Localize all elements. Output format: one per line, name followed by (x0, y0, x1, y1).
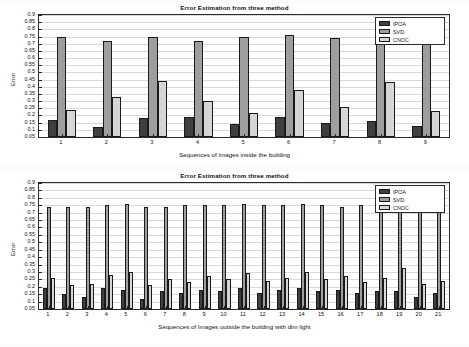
y-axis-label: 0.05 (16, 133, 35, 139)
y-axis-label: 0.2 (16, 111, 35, 117)
legend-item-ipoa: IPOA (379, 188, 441, 195)
x-axis-label: 4 (196, 139, 199, 145)
legend-item-svd: SVD (379, 28, 441, 35)
x-axis-tick (322, 306, 323, 309)
x-axis-tick (283, 306, 284, 309)
x-axis-label: 11 (240, 311, 246, 317)
x-axis-tick (107, 134, 108, 137)
bar-ipoa-1 (48, 120, 57, 137)
y-axis-tick (39, 15, 42, 16)
y-axis-tick (39, 37, 42, 38)
y-axis-label: 0.3 (16, 97, 35, 103)
y-axis-label: 0.65 (16, 47, 35, 53)
x-axis-label: 3 (85, 311, 88, 317)
bar-svd-9 (422, 37, 431, 137)
x-axis-label: 6 (287, 139, 290, 145)
x-axis-tick (303, 306, 304, 309)
bar-ipoa-4 (184, 117, 193, 137)
bar-svd-4 (194, 41, 203, 137)
chart-top-title: Error Estimation from three method (0, 4, 469, 11)
y-axis-label: 0.75 (16, 33, 35, 39)
y-axis-label: 0.35 (16, 90, 35, 96)
bar-cnoc-11 (246, 273, 250, 309)
bar-cnoc-5 (129, 272, 133, 309)
bar-svd-5 (239, 37, 248, 137)
y-axis-label: 0.85 (16, 18, 35, 24)
y-axis-tick (39, 265, 42, 266)
gridline (39, 183, 449, 184)
y-axis-label: 0.5 (16, 238, 35, 244)
y-axis-tick (39, 287, 42, 288)
x-axis-tick (107, 306, 108, 309)
y-axis-label: 0.4 (16, 253, 35, 259)
y-axis-label: 0.1 (16, 126, 35, 132)
bar-cnoc-10 (226, 279, 230, 309)
bar-cnoc-8 (187, 282, 191, 309)
y-axis-tick (39, 58, 42, 59)
bar-cnoc-6 (148, 285, 152, 309)
y-axis-tick (39, 51, 42, 52)
legend-swatch-ipoa (379, 21, 390, 26)
bar-cnoc-7 (168, 279, 172, 309)
x-axis-tick (381, 306, 382, 309)
legend-label: CNOC (393, 205, 409, 211)
y-axis-label: 0.3 (16, 268, 35, 274)
y-axis-tick (39, 294, 42, 295)
legend-swatch-cnoc (379, 37, 390, 42)
x-axis-tick (361, 306, 362, 309)
x-axis-label: 21 (435, 311, 441, 317)
y-axis-tick (39, 108, 42, 109)
x-axis-tick (264, 306, 265, 309)
y-axis-label: 0.5 (16, 68, 35, 74)
bar-cnoc-4 (203, 101, 212, 137)
y-axis-tick (39, 257, 42, 258)
y-axis-tick (39, 213, 42, 214)
bar-cnoc-9 (431, 111, 440, 137)
bar-ipoa-2 (93, 127, 102, 137)
legend-item-cnoc: CNOC (379, 36, 441, 43)
y-axis-tick (39, 137, 42, 138)
y-axis-label: 0.85 (16, 186, 35, 192)
chart-top: Error Estimation from three method Error… (0, 4, 469, 164)
y-axis-tick (39, 272, 42, 273)
x-axis-label: 20 (416, 311, 422, 317)
y-axis-tick (39, 44, 42, 45)
y-axis-label: 0.1 (16, 298, 35, 304)
y-axis-label: 0.65 (16, 216, 35, 222)
legend-label: SVD (393, 29, 404, 35)
x-axis-label: 6 (144, 311, 147, 317)
legend-label: IPOA (393, 189, 406, 195)
x-axis-tick (244, 134, 245, 137)
chart-top-legend: IPOASVDCNOC (375, 17, 445, 45)
y-axis-tick (39, 130, 42, 131)
bar-cnoc-19 (402, 268, 406, 310)
x-axis-tick (205, 306, 206, 309)
y-axis-tick (39, 101, 42, 102)
chart-top-x-axis-title: Sequences of Images inside the building (0, 151, 469, 158)
y-axis-tick (39, 72, 42, 73)
bar-svd-6 (285, 35, 294, 137)
bar-ipoa-8 (367, 121, 376, 137)
x-axis-label: 13 (279, 311, 285, 317)
bar-cnoc-16 (344, 276, 348, 309)
x-axis-tick (146, 306, 147, 309)
x-axis-tick (335, 134, 336, 137)
bar-cnoc-17 (363, 282, 367, 309)
bar-cnoc-1 (51, 278, 55, 309)
bar-ipoa-7 (321, 123, 330, 137)
x-axis-label: 8 (378, 139, 381, 145)
x-axis-label: 15 (318, 311, 324, 317)
x-axis-tick (62, 134, 63, 137)
x-axis-tick (153, 134, 154, 137)
y-axis-label: 0.8 (16, 194, 35, 200)
y-axis-tick (39, 80, 42, 81)
y-axis-tick (39, 190, 42, 191)
bar-svd-2 (103, 41, 112, 137)
x-axis-tick (68, 306, 69, 309)
chart-bottom-legend: IPOASVDCNOC (375, 185, 445, 213)
y-axis-label: 0.9 (16, 11, 35, 17)
y-axis-tick (39, 87, 42, 88)
x-axis-label: 5 (241, 139, 244, 145)
legend-swatch-cnoc (379, 205, 390, 210)
bar-cnoc-18 (383, 278, 387, 309)
